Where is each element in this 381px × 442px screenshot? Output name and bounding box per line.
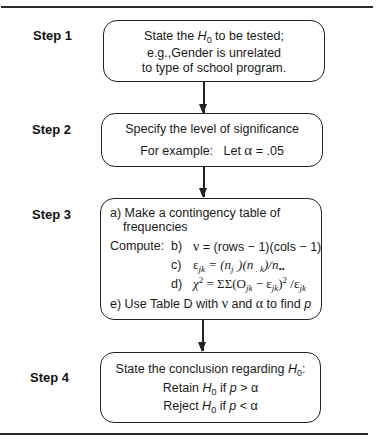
step-1-box: State the H0 to be tested; e.g.,Gender i… (103, 20, 325, 82)
step-3-compute-label: Compute: (110, 239, 164, 254)
step-3-item-b-tag: b) (171, 239, 182, 254)
step-2-line-1: Specify the level of significance (102, 122, 322, 137)
step-1-line-1: State the H0 to be tested; (104, 29, 324, 44)
step-4-reject-rule: Reject H0 if p < α (101, 399, 320, 414)
step-3-item-b: ν = (rows − 1)(cols − 1) (193, 239, 321, 255)
step-3-item-e: e) Use Table D with ν and α to find p (110, 296, 311, 312)
step-3-box: a) Make a contingency table of frequenci… (100, 198, 322, 320)
step-3-item-d-tag: d) (171, 277, 182, 292)
step-3-label: Step 3 (32, 207, 71, 222)
bottom-rule (0, 433, 368, 435)
step-3-item-a: a) Make a contingency table of (110, 206, 280, 221)
arrow-1-to-2 (203, 82, 205, 113)
step-2-label: Step 2 (32, 122, 71, 137)
step-2-line-2: For example: Let α = .05 (102, 143, 322, 159)
step-1-line-3: to type of school program. (104, 61, 324, 76)
step-3-item-a-cont: frequencies (123, 220, 188, 235)
arrow-3-to-4 (202, 320, 204, 351)
step-1-line-2: e.g.,Gender is unrelated (104, 46, 324, 61)
step-1-label: Step 1 (33, 28, 72, 43)
step-4-box: State the conclusion regarding H0: Retai… (100, 352, 321, 423)
arrow-2-to-3 (203, 167, 205, 197)
step-3-item-c-tag: c) (171, 258, 181, 273)
step-4-line-1: State the conclusion regarding H0: (101, 362, 320, 377)
step-4-retain-rule: Retain H0 if p > α (101, 381, 320, 396)
step-2-box: Specify the level of significance For ex… (101, 113, 323, 167)
step-4-label: Step 4 (30, 370, 69, 385)
step-3-item-d: χ2 = ΣΣ(Ojk − εjk)2 /εjk (193, 276, 306, 291)
step-3-item-c: εjk = (nj .)(n . k)/n•• (193, 257, 285, 272)
top-rule (1, 6, 373, 8)
